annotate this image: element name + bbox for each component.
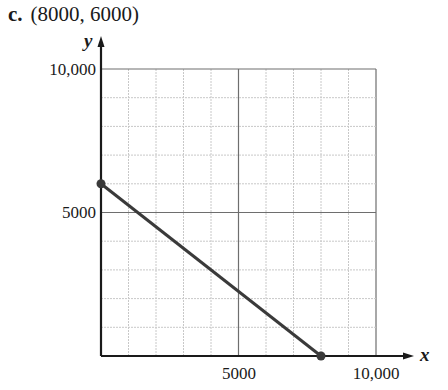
chart-plot: y x 10,000 5000 5000 10,000 bbox=[0, 0, 448, 390]
data-point-marker bbox=[317, 352, 326, 361]
x-tick-label-5000: 5000 bbox=[222, 364, 256, 383]
y-axis-arrow-icon bbox=[98, 36, 105, 47]
y-tick-label-5000: 5000 bbox=[62, 203, 96, 222]
data-point-marker bbox=[97, 179, 106, 188]
x-tick-label-10000: 10,000 bbox=[353, 364, 400, 383]
y-tick-label-10000: 10,000 bbox=[49, 60, 96, 79]
axes: y x 10,000 5000 5000 10,000 bbox=[49, 30, 430, 383]
y-axis-label: y bbox=[82, 30, 93, 51]
grid bbox=[101, 69, 376, 356]
x-axis-arrow-icon bbox=[403, 353, 414, 360]
x-axis-label: x bbox=[419, 344, 430, 365]
